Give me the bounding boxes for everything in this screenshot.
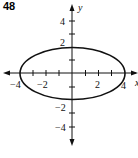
- x-tick-label-4: 4: [121, 80, 126, 91]
- y-axis-down-arrow-icon: [70, 139, 75, 146]
- x-axis-label: x: [134, 77, 138, 88]
- y-tick-label-2: 2: [60, 37, 65, 48]
- y-axis-label: y: [77, 2, 83, 13]
- x-tick-label-neg4: −4: [10, 79, 21, 90]
- x-axis-right-arrow-icon: [131, 71, 138, 76]
- ellipse-graph: −4 −2 2 4 4 2 −2 −4 y x: [0, 0, 138, 158]
- y-axis-up-arrow-icon: [70, 4, 75, 11]
- x-axis: [3, 70, 138, 76]
- y-tick-label-neg4: −4: [55, 122, 66, 133]
- y-tick-label-neg2: −2: [55, 102, 66, 113]
- y-axis: [69, 4, 75, 146]
- y-tick-label-4: 4: [60, 16, 65, 27]
- x-tick-label-2: 2: [95, 79, 100, 90]
- x-axis-left-arrow-icon: [3, 71, 10, 76]
- x-tick-label-neg2: −2: [37, 79, 48, 90]
